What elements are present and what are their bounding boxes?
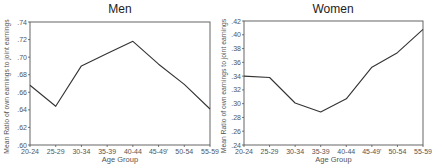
- men-xtick-label: 20-24: [21, 148, 39, 155]
- men-xtick-label: 40-44: [124, 148, 142, 155]
- women-ytick-label: .42: [231, 18, 241, 25]
- women-xtick-label: 40-44: [337, 148, 355, 155]
- women-xtick-label: 20-24: [235, 148, 253, 155]
- men-ytick-label: .74: [17, 19, 27, 26]
- figure: Men.60.62.64.66.68.70.72.7420-2425-2930-…: [0, 0, 438, 168]
- men-xtick-label: 25-29: [47, 148, 65, 155]
- men-ytick-label: .66: [17, 89, 27, 96]
- women-chart-title: Women: [312, 2, 353, 16]
- men-ytick-label: .64: [17, 106, 27, 113]
- men-ytick-label: .62: [17, 124, 27, 131]
- women-ytick-label: .36: [231, 59, 241, 66]
- men-ytick-label: .68: [17, 71, 27, 78]
- men-xtick-label: 50-54: [175, 148, 193, 155]
- women-xtick-label: 50-54: [388, 148, 406, 155]
- men-xtick-label: 30-34: [72, 148, 90, 155]
- women-xtick-label: 30-34: [286, 148, 304, 155]
- women-ytick-label: .28: [231, 114, 241, 121]
- men-data-line: [30, 41, 210, 109]
- women-data-line: [244, 29, 423, 112]
- women-yaxis-label: Mean Ratio of own earnings to joint earn…: [220, 18, 228, 153]
- women-ytick-label: .40: [231, 31, 241, 38]
- women-xtick-label: 35-39: [312, 148, 330, 155]
- men-chart-title: Men: [108, 2, 131, 16]
- women-ytick-label: .30: [231, 100, 241, 107]
- men-xtick-label: 55-59: [201, 148, 219, 155]
- women-xtick-label: 45-49': [362, 148, 381, 155]
- women-ytick-label: .34: [231, 73, 241, 80]
- men-ytick-label: .72: [17, 36, 27, 43]
- men-xtick-label: 45-49': [149, 148, 168, 155]
- women-ytick-label: .38: [231, 45, 241, 52]
- women-ytick-label: .32: [231, 86, 241, 93]
- women-plot-frame: [244, 21, 423, 145]
- women-xaxis-label: Age Group: [315, 155, 351, 164]
- line-charts: Men.60.62.64.66.68.70.72.7420-2425-2930-…: [0, 0, 438, 168]
- men-yaxis-label: Mean Ratio of own earnings to joint earn…: [3, 19, 11, 154]
- men-xtick-label: 35-39: [98, 148, 116, 155]
- men-xaxis-label: Age Group: [102, 155, 138, 164]
- women-ytick-label: .26: [231, 128, 241, 135]
- men-ytick-label: .70: [17, 54, 27, 61]
- women-xtick-label: 25-29: [261, 148, 279, 155]
- women-xtick-label: 55-59: [414, 148, 432, 155]
